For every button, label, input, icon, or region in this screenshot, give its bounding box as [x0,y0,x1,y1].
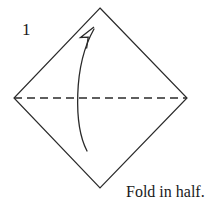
step-number-label: 1 [22,21,31,38]
origami-diagram [0,0,223,209]
instruction-caption: Fold in half. [126,183,205,201]
origami-figure: 1 Fold in half. [0,0,223,209]
